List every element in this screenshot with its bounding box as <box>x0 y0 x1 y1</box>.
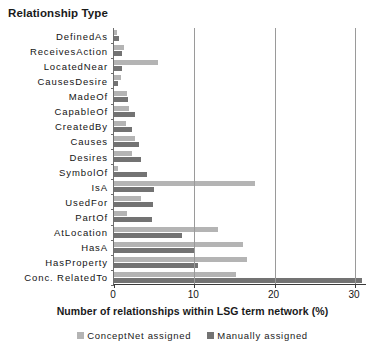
plot-area <box>113 28 366 285</box>
x-axis-tick <box>114 284 115 288</box>
x-axis-tick <box>194 284 195 288</box>
bar-row <box>114 28 366 43</box>
y-axis-tick <box>111 43 114 44</box>
y-axis-tick <box>111 240 114 241</box>
bar-conceptnet <box>114 272 236 277</box>
bar-conceptnet <box>114 121 126 126</box>
bar-conceptnet <box>114 151 132 156</box>
bar-manual <box>114 172 147 177</box>
chart-legend: ConceptNet assignedManually assigned <box>0 330 385 341</box>
y-axis-label-usedfor: UsedFor <box>65 196 108 207</box>
bar-conceptnet <box>114 136 135 141</box>
y-axis-label-hasa: HasA <box>81 242 108 253</box>
bar-row <box>114 43 366 58</box>
y-axis-label-madeof: MadeOf <box>69 91 108 102</box>
y-axis-label-atlocation: AtLocation <box>54 227 108 238</box>
y-axis-label-partof: PartOf <box>75 211 108 222</box>
y-axis-tick <box>111 285 114 286</box>
x-axis-tick <box>355 284 356 288</box>
bar-manual <box>114 112 135 117</box>
y-axis-tick <box>111 209 114 210</box>
bar-row <box>114 104 366 119</box>
legend-label: Manually assigned <box>217 330 308 341</box>
x-axis-tick <box>275 284 276 288</box>
bar-manual <box>114 36 119 41</box>
y-axis-label-conc-relatedto: Conc. RelatedTo <box>24 272 108 283</box>
legend-swatch-icon <box>77 332 84 339</box>
legend-entry: ConceptNet assigned <box>77 330 191 341</box>
bar-conceptnet <box>114 45 124 50</box>
bar-row <box>114 209 366 224</box>
y-axis-label-locatednear: LocatedNear <box>44 60 108 71</box>
bar-row <box>114 240 366 255</box>
legend-label: ConceptNet assigned <box>87 330 191 341</box>
y-axis-label-causesdesire: CausesDesire <box>38 75 108 86</box>
bar-manual <box>114 81 118 86</box>
bar-conceptnet <box>114 91 127 96</box>
bar-row <box>114 194 366 209</box>
bar-manual <box>114 127 132 132</box>
bar-conceptnet <box>114 196 141 201</box>
y-axis-tick <box>111 225 114 226</box>
y-axis-label-isa: IsA <box>92 181 108 192</box>
bar-manual <box>114 202 153 207</box>
x-axis-tick-label: 10 <box>188 289 199 300</box>
bar-conceptnet <box>114 166 118 171</box>
bar-row <box>114 134 366 149</box>
bar-row <box>114 88 366 103</box>
x-axis-tick-label: 30 <box>348 289 359 300</box>
bar-manual <box>114 217 152 222</box>
legend-swatch-icon <box>207 332 214 339</box>
legend-entry: Manually assigned <box>207 330 308 341</box>
bar-row <box>114 179 366 194</box>
bar-manual <box>114 97 128 102</box>
bar-chart: Relationship Type DefinedAsReceivesActio… <box>0 0 385 353</box>
y-axis-tick <box>111 134 114 135</box>
y-axis-label-definedas: DefinedAs <box>56 30 108 41</box>
bar-row <box>114 270 366 285</box>
bar-manual <box>114 278 362 283</box>
y-axis-tick <box>111 164 114 165</box>
y-axis-tick <box>111 119 114 120</box>
y-axis-label-createdby: CreatedBy <box>55 121 108 132</box>
gridline <box>194 28 195 284</box>
bar-conceptnet <box>114 227 218 232</box>
y-axis-tick <box>111 104 114 105</box>
bar-row <box>114 255 366 270</box>
chart-title: Relationship Type <box>8 7 108 19</box>
y-axis-tick <box>111 58 114 59</box>
bar-conceptnet <box>114 60 158 65</box>
y-axis-tick <box>111 255 114 256</box>
bar-conceptnet <box>114 257 247 262</box>
y-axis-tick <box>111 149 114 150</box>
bar-manual <box>114 157 141 162</box>
gridline <box>355 28 356 284</box>
bar-row <box>114 119 366 134</box>
y-axis-tick <box>111 270 114 271</box>
bar-manual <box>114 233 182 238</box>
bar-row <box>114 164 366 179</box>
x-axis-title: Number of relationships within LSG term … <box>0 305 385 317</box>
y-axis-tick <box>111 194 114 195</box>
bar-conceptnet <box>114 106 129 111</box>
bar-row <box>114 225 366 240</box>
bar-row <box>114 58 366 73</box>
x-axis-tick-labels: 0102030 <box>0 289 385 303</box>
x-axis-tick-label: 20 <box>268 289 279 300</box>
y-axis-label-desires: Desires <box>69 151 108 162</box>
bar-conceptnet <box>114 242 243 247</box>
bar-manual <box>114 51 122 56</box>
y-axis-tick <box>111 73 114 74</box>
bar-manual <box>114 187 154 192</box>
bar-manual <box>114 263 198 268</box>
y-axis-label-receivesaction: ReceivesAction <box>30 45 108 56</box>
y-axis-label-causes: Causes <box>70 136 108 147</box>
y-axis-label-capableof: CapableOf <box>54 106 108 117</box>
gridline <box>275 28 276 284</box>
y-axis-label-symbolof: SymbolOf <box>59 166 108 177</box>
y-axis-labels: DefinedAsReceivesActionLocatedNearCauses… <box>0 28 110 285</box>
bar-manual <box>114 142 139 147</box>
bar-conceptnet <box>114 181 255 186</box>
y-axis-tick <box>111 179 114 180</box>
y-axis-tick <box>111 88 114 89</box>
